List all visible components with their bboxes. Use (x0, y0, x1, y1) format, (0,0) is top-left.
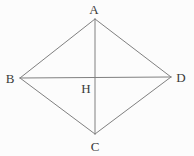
geometry-figure: A B C D H (0, 0, 194, 156)
vertex-label-A: A (89, 3, 98, 16)
vertex-label-D: D (176, 71, 185, 84)
segment-side-CD (95, 77, 171, 134)
vertex-label-C: C (91, 140, 100, 153)
vertex-label-B: B (6, 72, 15, 85)
geometry-canvas (0, 0, 194, 156)
segment-side-AB (20, 19, 95, 78)
segment-side-AD (95, 19, 171, 77)
vertex-label-H: H (81, 82, 90, 95)
segment-diagonal-BD (20, 77, 171, 78)
